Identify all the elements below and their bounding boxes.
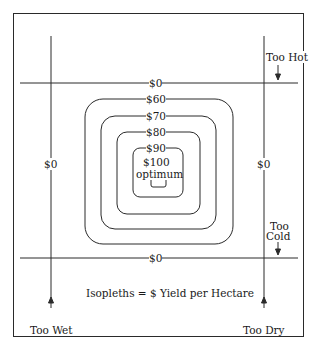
too-cold-arrow-icon [276,249,281,255]
left-boundary-label: $0 [44,158,57,170]
right-boundary-label: $0 [257,158,270,170]
optimum-bracket [151,180,166,187]
too-hot-arrow-icon [276,74,281,80]
top-boundary-label: $0 [149,77,162,89]
too-dry-arrow-icon [262,297,267,303]
too-wet-arrow-icon [49,297,54,303]
isopleth-90-label: $90 [146,142,166,154]
isopleth-80-label: $80 [146,126,166,138]
too-hot-label: Too Hot [266,51,308,63]
too-dry-label: Too Dry [243,324,285,336]
bottom-boundary-label: $0 [149,252,162,264]
optimum-label: optimum [136,168,183,180]
optimum-value: $100 [143,156,170,168]
diagram-caption: Isopleths = $ Yield per Hectare [86,287,254,299]
isopleth-70-label: $70 [146,110,166,122]
isopleth-60-label: $60 [146,93,166,105]
too-wet-label: Too Wet [30,324,73,336]
too-cold-label-line2: Cold [266,230,290,242]
